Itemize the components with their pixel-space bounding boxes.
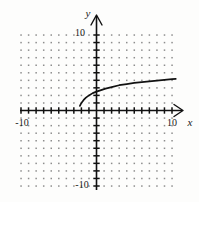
grid-dot — [149, 148, 151, 150]
grid-dot — [141, 65, 143, 67]
grid-dot — [171, 102, 173, 104]
grid-dot — [66, 155, 68, 157]
grid-dot — [43, 132, 45, 134]
grid-dot — [28, 49, 30, 51]
grid-dot — [141, 95, 143, 97]
grid-dot — [66, 185, 68, 187]
grid-dot — [43, 57, 45, 59]
grid-dot — [43, 163, 45, 165]
grid-dot — [103, 65, 105, 67]
grid-dot — [51, 117, 53, 119]
grid-dot — [66, 117, 68, 119]
grid-dot — [81, 117, 83, 119]
grid-dot — [164, 140, 166, 142]
grid-dot — [103, 140, 105, 142]
grid-dot — [103, 125, 105, 127]
grid-dot — [103, 163, 105, 165]
grid-dot — [103, 102, 105, 104]
grid-dot — [73, 72, 75, 74]
grid-dot — [103, 170, 105, 172]
grid-dot — [35, 163, 37, 165]
grid-dot — [171, 155, 173, 157]
grid-dot — [20, 178, 22, 180]
grid-dot — [141, 49, 143, 51]
grid-dot — [134, 80, 136, 82]
grid-dot — [141, 102, 143, 104]
grid-dot — [20, 42, 22, 44]
grid-dot — [35, 95, 37, 97]
grid-dot — [156, 57, 158, 59]
grid-dot — [126, 117, 128, 119]
grid-dot — [43, 117, 45, 119]
grid-dot — [51, 49, 53, 51]
grid-dot — [126, 155, 128, 157]
grid-dot — [103, 34, 105, 36]
grid-dot — [81, 155, 83, 157]
grid-dot — [73, 132, 75, 134]
grid-dot — [73, 125, 75, 127]
grid-dot — [66, 95, 68, 97]
grid-dot — [134, 72, 136, 74]
grid-dot — [118, 42, 120, 44]
grid-dot — [88, 125, 90, 127]
grid-dot — [141, 155, 143, 157]
grid-dot — [66, 49, 68, 51]
grid-dot — [20, 148, 22, 150]
grid-dot — [156, 178, 158, 180]
grid-dot — [111, 148, 113, 150]
grid-dot — [20, 65, 22, 67]
grid-dot — [35, 34, 37, 36]
grid-dot — [88, 170, 90, 172]
grid-dot — [58, 42, 60, 44]
grid-dot — [51, 185, 53, 187]
grid-dot — [88, 34, 90, 36]
grid-dot — [134, 185, 136, 187]
grid-dot — [111, 72, 113, 74]
grid-dot — [35, 170, 37, 172]
grid-dot — [171, 65, 173, 67]
grid-dot — [149, 102, 151, 104]
grid-dot — [88, 132, 90, 134]
grid-dot — [58, 178, 60, 180]
grid-dot — [126, 87, 128, 89]
grid-dot — [149, 185, 151, 187]
grid-dot — [134, 148, 136, 150]
grid-dot — [171, 42, 173, 44]
grid-dot — [149, 49, 151, 51]
grid-dot — [88, 49, 90, 51]
grid-dot — [66, 42, 68, 44]
grid-dot — [118, 102, 120, 104]
grid-dot — [28, 132, 30, 134]
grid-dot — [51, 87, 53, 89]
grid-dot — [43, 49, 45, 51]
grid-dot — [66, 132, 68, 134]
grid-dot — [43, 170, 45, 172]
grid-dot — [35, 185, 37, 187]
grid-dot — [20, 87, 22, 89]
grid-dot — [118, 72, 120, 74]
grid-dot — [103, 155, 105, 157]
grid-dot — [28, 155, 30, 157]
grid-dot — [111, 170, 113, 172]
grid-dot — [20, 170, 22, 172]
grid-dot — [149, 34, 151, 36]
grid-dot — [134, 57, 136, 59]
grid-dot — [164, 72, 166, 74]
grid-dot — [156, 34, 158, 36]
grid-dot — [73, 49, 75, 51]
grid-dot — [118, 57, 120, 59]
grid-dot — [118, 125, 120, 127]
grid-dot — [28, 72, 30, 74]
grid-dot — [118, 155, 120, 157]
grid-dot — [43, 42, 45, 44]
grid-dot — [118, 132, 120, 134]
grid-dot — [141, 72, 143, 74]
grid-dot — [20, 72, 22, 74]
grid-dot — [164, 125, 166, 127]
grid-dot — [51, 132, 53, 134]
grid-dot — [58, 170, 60, 172]
grid-dot — [28, 178, 30, 180]
grid-dot — [20, 49, 22, 51]
grid-dot — [35, 155, 37, 157]
grid-dot — [28, 163, 30, 165]
